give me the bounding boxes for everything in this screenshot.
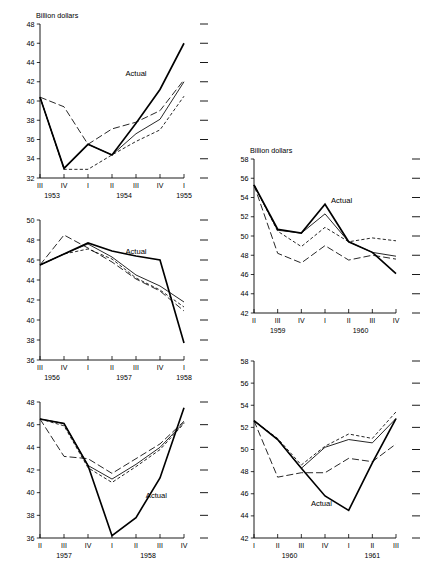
chart-panel-tr: Billion dollars424446485052545658IIIIIIV…	[228, 143, 426, 339]
y-tick-label: 38	[27, 511, 35, 520]
x-quarter-label: III	[157, 542, 163, 549]
x-year-label: 1955	[176, 192, 192, 199]
x-quarter-label: III	[133, 182, 139, 189]
y-tick-label: 46	[27, 256, 35, 265]
x-year-label: 1956	[44, 374, 60, 381]
x-quarter-label: I	[324, 317, 326, 324]
actual-series-annotation: Actual	[311, 499, 332, 508]
y-tick-label: 46	[241, 489, 249, 498]
chart-panel-tl: Billion dollars323436384042444648IIIIVII…	[14, 8, 214, 204]
series-line-forecast-a	[40, 419, 184, 473]
x-quarter-label: II	[110, 364, 114, 371]
x-year-label: 1953	[44, 192, 60, 199]
y-tick-label: 42	[27, 296, 35, 305]
x-quarter-label: III	[275, 317, 281, 324]
series-line-actual	[254, 185, 396, 274]
series-line-forecast-a	[254, 421, 396, 477]
y-tick-label: 50	[241, 232, 249, 241]
x-year-label: 1960	[282, 552, 298, 559]
y-tick-label: 48	[27, 398, 35, 407]
x-quarter-label: IV	[157, 182, 164, 189]
series-line-forecast-a	[40, 235, 184, 311]
y-tick-label: 42	[241, 534, 249, 543]
x-year-label: 1958	[140, 552, 156, 559]
y-tick-label: 54	[241, 193, 249, 202]
chart-panel-br: 424446485052545658IIIIIIIVIIIIII19601961…	[228, 355, 426, 564]
y-tick-label: 42	[27, 466, 35, 475]
y-tick-label: 48	[27, 20, 35, 29]
axis-unit-label: Billion dollars	[250, 146, 293, 155]
x-quarter-label: IV	[393, 317, 400, 324]
y-tick-label: 58	[241, 357, 249, 366]
x-quarter-label: IV	[157, 364, 164, 371]
x-quarter-label: I	[253, 542, 255, 549]
y-tick-label: 36	[27, 135, 35, 144]
x-year-label: 1954	[116, 192, 132, 199]
y-tick-label: 44	[27, 276, 35, 285]
x-year-label: 1958	[176, 374, 192, 381]
x-quarter-label: II	[252, 317, 256, 324]
y-tick-label: 48	[241, 251, 249, 260]
axis-unit-label: Billion dollars	[36, 11, 79, 20]
x-quarter-label: II	[370, 542, 374, 549]
y-tick-label: 36	[27, 356, 35, 365]
series-line-actual	[254, 419, 396, 511]
x-quarter-label: I	[87, 182, 89, 189]
x-quarter-label: III	[37, 364, 43, 371]
x-quarter-label: II	[347, 317, 351, 324]
series-line-actual	[40, 408, 184, 536]
y-tick-label: 56	[241, 379, 249, 388]
actual-series-annotation: Actual	[125, 69, 146, 78]
x-quarter-label: I	[183, 364, 185, 371]
figure-canvas: Billion dollars323436384042444648IIIIVII…	[0, 0, 434, 569]
x-quarter-label: II	[276, 542, 280, 549]
y-tick-label: 44	[27, 58, 35, 67]
x-quarter-label: IV	[181, 542, 188, 549]
x-quarter-label: IV	[61, 182, 68, 189]
series-line-forecast-b	[254, 419, 396, 469]
y-tick-label: 36	[27, 534, 35, 543]
y-tick-label: 50	[241, 445, 249, 454]
axis-spine	[254, 159, 396, 313]
x-quarter-label: II	[110, 182, 114, 189]
y-tick-label: 38	[27, 336, 35, 345]
y-tick-label: 46	[27, 39, 35, 48]
y-tick-label: 32	[27, 174, 35, 183]
actual-series-annotation: Actual	[331, 196, 352, 205]
y-tick-label: 42	[27, 77, 35, 86]
x-quarter-label: III	[133, 364, 139, 371]
y-tick-label: 52	[241, 423, 249, 432]
axis-spine	[40, 220, 184, 360]
y-tick-label: 40	[27, 316, 35, 325]
series-line-forecast-c	[40, 249, 184, 307]
chart-panel-ml: 3638404244464850IIIIVIIIIIIIVI1956195719…	[14, 214, 214, 386]
x-quarter-label: I	[111, 542, 113, 549]
y-tick-label: 46	[241, 270, 249, 279]
x-quarter-label: IV	[298, 317, 305, 324]
y-tick-label: 44	[241, 289, 249, 298]
y-tick-label: 40	[27, 97, 35, 106]
x-quarter-label: II	[38, 542, 42, 549]
series-line-forecast-a	[40, 80, 184, 144]
x-quarter-label: I	[348, 542, 350, 549]
y-tick-label: 48	[241, 467, 249, 476]
actual-series-annotation: Actual	[146, 491, 167, 500]
x-quarter-label: III	[393, 542, 399, 549]
y-tick-label: 38	[27, 116, 35, 125]
chart-panel-bl: 36384042444648IIIIIIVIIIIIIIV19571958Act…	[14, 396, 214, 564]
series-line-forecast-c	[254, 185, 396, 247]
y-tick-label: 46	[27, 420, 35, 429]
y-tick-label: 58	[241, 155, 249, 164]
y-tick-label: 34	[27, 154, 35, 163]
y-tick-label: 40	[27, 488, 35, 497]
x-quarter-label: III	[61, 542, 67, 549]
x-quarter-label: II	[134, 542, 138, 549]
x-quarter-label: I	[183, 182, 185, 189]
x-quarter-label: IV	[85, 542, 92, 549]
x-quarter-label: III	[298, 542, 304, 549]
x-year-label: 1959	[270, 327, 286, 334]
x-year-label: 1957	[56, 552, 72, 559]
y-tick-label: 44	[241, 511, 249, 520]
y-tick-label: 56	[241, 174, 249, 183]
x-quarter-label: III	[369, 317, 375, 324]
